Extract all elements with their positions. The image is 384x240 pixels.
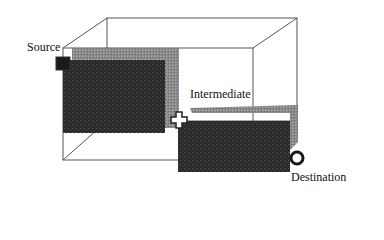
destination-block xyxy=(178,105,298,172)
label-source: Source xyxy=(27,40,60,55)
label-destination: Destination xyxy=(291,170,346,185)
label-intermediate: Intermediate xyxy=(190,87,251,102)
destination-ring-marker xyxy=(291,152,303,164)
source-square-marker xyxy=(56,57,70,70)
source-block xyxy=(63,48,179,133)
